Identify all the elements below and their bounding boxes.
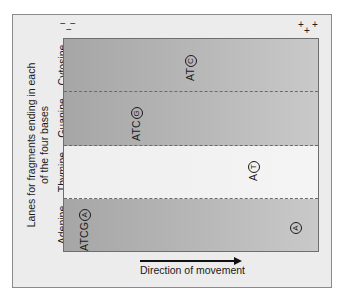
lane-divider <box>64 145 318 146</box>
band-sequence: ATC <box>130 120 142 141</box>
lane-adenine <box>64 199 318 251</box>
lane-thymine <box>64 146 318 199</box>
positive-sign: + <box>298 20 304 30</box>
circled-base: A <box>290 222 302 234</box>
circled-base: G <box>131 107 143 119</box>
lane-divider <box>64 198 318 199</box>
band-sequence: A <box>247 174 259 181</box>
band-guanine: ATCG <box>130 107 143 141</box>
negative-sign: − <box>66 25 72 35</box>
circled-base: C <box>185 55 197 67</box>
lane-guanine <box>64 92 318 146</box>
band-thymine: AT <box>247 161 260 181</box>
axis-title-line-1: Lanes for fragments ending in each <box>25 63 38 228</box>
band-sequence: AT <box>184 68 196 81</box>
direction-arrow <box>140 260 240 262</box>
circled-base: T <box>248 161 260 173</box>
band-cytosine: ATC <box>184 55 197 81</box>
axis-title-line-2: of the four bases <box>38 63 51 228</box>
band-sequence: ATCG <box>78 222 90 251</box>
direction-label: Direction of movement <box>140 264 245 276</box>
lanes-axis-title: Lanes for fragments ending in each of th… <box>25 63 51 228</box>
circled-base: A <box>79 209 91 221</box>
band-adenine-short: A <box>289 222 302 235</box>
lane-divider <box>64 91 318 92</box>
band-adenine-long: ATCGA <box>78 209 91 251</box>
negative-sign: − <box>60 19 66 29</box>
positive-sign: + <box>304 26 310 36</box>
sequencing-gel: ATC ATCG AT ATCGA A <box>63 38 319 252</box>
positive-sign: + <box>312 20 318 30</box>
